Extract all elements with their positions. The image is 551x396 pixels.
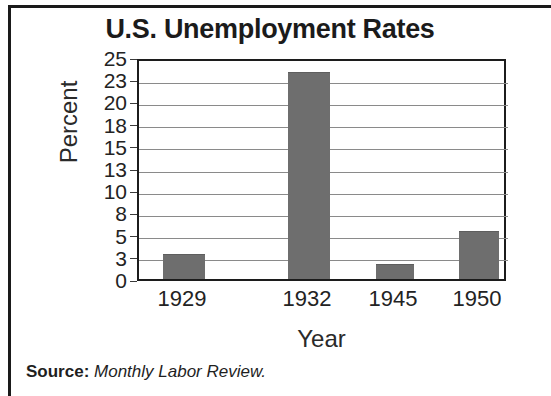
y-axis-tick-label: 10 (83, 181, 127, 202)
source-publication-name: Monthly Labor Review. (94, 362, 266, 381)
y-axis-tick-label: 3 (83, 248, 127, 269)
y-axis-tickmark (130, 103, 137, 104)
bar-1929 (163, 254, 205, 279)
y-axis-tickmark (130, 192, 137, 193)
x-axis-tick-label-1945: 1945 (348, 287, 438, 311)
y-axis-tick-label: 13 (83, 159, 127, 180)
y-axis-tick-label: 25 (83, 48, 127, 69)
x-axis-tick-label-1932: 1932 (262, 287, 352, 311)
y-axis-tickmark (130, 147, 137, 148)
figure-border-top (8, 5, 551, 8)
bar-1945 (376, 264, 414, 279)
source-label: Source: (26, 362, 89, 381)
y-axis-tick-label: 20 (83, 92, 127, 113)
y-axis-tickmark (130, 81, 137, 82)
y-axis-tick-label: 0 (83, 270, 127, 291)
y-axis-tickmark (130, 258, 137, 259)
y-axis-title: Percent (55, 52, 83, 192)
y-axis-tickmark (130, 281, 137, 282)
y-axis-tickmark (130, 214, 137, 215)
y-axis-tick-label: 5 (83, 226, 127, 247)
figure-border-left (8, 5, 11, 396)
y-axis-tickmark (130, 170, 137, 171)
y-axis-tick-label: 8 (83, 203, 127, 224)
x-axis-tick-label-1950: 1950 (432, 287, 522, 311)
y-axis-tick-labels: 252320181513108530 (83, 59, 127, 281)
x-axis-title: Year (137, 325, 506, 353)
y-axis-tickmark (130, 125, 137, 126)
bar-1950 (459, 231, 499, 279)
y-axis-tick-label: 18 (83, 115, 127, 136)
plot-area (137, 59, 506, 281)
x-axis-tick-label-1929: 1929 (137, 287, 227, 311)
source-note: Source: Monthly Labor Review. (26, 362, 266, 382)
y-axis-tick-label: 23 (83, 70, 127, 91)
figure-container: U.S. Unemployment Rates Percent 25232018… (0, 0, 551, 396)
bar-1932 (288, 72, 330, 279)
y-axis-tickmark (130, 236, 137, 237)
chart-title: U.S. Unemployment Rates (20, 14, 520, 45)
y-axis-tick-label: 15 (83, 137, 127, 158)
y-axis-tickmark (130, 59, 137, 60)
plot-wrapper: 252320181513108530 (137, 59, 506, 281)
